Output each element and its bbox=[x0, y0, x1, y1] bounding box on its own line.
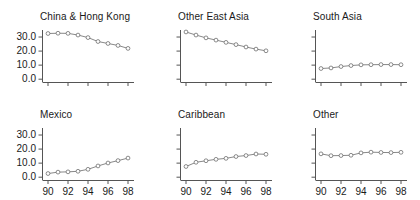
x-tick-label: 90 bbox=[37, 187, 59, 197]
x-tick-label: 90 bbox=[175, 187, 197, 197]
data-point bbox=[126, 47, 130, 51]
x-tick-label: 92 bbox=[195, 187, 217, 197]
y-tick-label: 20.0 bbox=[2, 46, 36, 56]
data-point bbox=[56, 170, 60, 174]
data-point bbox=[184, 165, 188, 169]
panel-title: Other East Asia bbox=[178, 11, 249, 22]
data-point bbox=[86, 167, 90, 171]
data-point bbox=[86, 36, 90, 40]
data-point bbox=[379, 151, 383, 155]
data-point bbox=[264, 152, 268, 156]
data-point bbox=[66, 31, 70, 35]
data-point bbox=[264, 49, 268, 53]
data-point bbox=[126, 156, 130, 160]
plot-area bbox=[180, 30, 282, 92]
x-tick-label: 96 bbox=[97, 187, 119, 197]
y-tick-label: 0.0 bbox=[2, 172, 36, 182]
data-point bbox=[106, 161, 110, 165]
data-point bbox=[319, 152, 323, 156]
data-point bbox=[359, 151, 363, 155]
x-tick-label: 98 bbox=[117, 187, 139, 197]
x-tick-label: 96 bbox=[235, 187, 257, 197]
data-point bbox=[204, 36, 208, 40]
data-point bbox=[399, 63, 403, 67]
x-tick-label: 94 bbox=[350, 187, 372, 197]
panel-title: Caribbean bbox=[178, 109, 225, 120]
data-point bbox=[214, 157, 218, 161]
data-point bbox=[224, 156, 228, 160]
figure-canvas: China & Hong Kong0.010.020.030.0Other Ea… bbox=[0, 0, 420, 200]
data-point bbox=[389, 63, 393, 67]
data-point bbox=[369, 63, 373, 67]
x-tick-label: 98 bbox=[255, 187, 277, 197]
data-point bbox=[46, 172, 50, 176]
data-point bbox=[106, 42, 110, 46]
x-tick-label: 92 bbox=[57, 187, 79, 197]
data-point bbox=[96, 40, 100, 44]
data-point bbox=[116, 159, 120, 163]
data-point bbox=[96, 164, 100, 168]
plot-area bbox=[315, 128, 417, 190]
plot-area bbox=[315, 30, 417, 92]
data-point bbox=[254, 152, 258, 156]
data-point bbox=[76, 169, 80, 173]
data-point bbox=[204, 159, 208, 163]
data-point bbox=[224, 40, 228, 44]
x-tick-label: 92 bbox=[330, 187, 352, 197]
panel-title: Mexico bbox=[40, 109, 72, 120]
x-tick-label: 94 bbox=[215, 187, 237, 197]
data-point bbox=[329, 154, 333, 158]
data-point bbox=[254, 47, 258, 51]
y-tick-label: 10.0 bbox=[2, 158, 36, 168]
y-tick-label: 10.0 bbox=[2, 60, 36, 70]
data-point bbox=[214, 38, 218, 42]
y-tick-label: 30.0 bbox=[2, 130, 36, 140]
panel-title: South Asia bbox=[313, 11, 362, 22]
x-tick-label: 94 bbox=[77, 187, 99, 197]
data-point bbox=[116, 44, 120, 48]
data-point bbox=[399, 150, 403, 154]
data-point bbox=[234, 43, 238, 47]
data-point bbox=[319, 67, 323, 71]
panel-title: China & Hong Kong bbox=[40, 11, 130, 22]
data-point bbox=[194, 160, 198, 164]
plot-area bbox=[42, 128, 144, 190]
plot-area bbox=[180, 128, 282, 190]
plot-area bbox=[42, 30, 144, 92]
data-point bbox=[339, 65, 343, 69]
data-point bbox=[66, 170, 70, 174]
x-tick-label: 98 bbox=[390, 187, 412, 197]
data-point bbox=[56, 31, 60, 35]
x-tick-label: 96 bbox=[370, 187, 392, 197]
data-point bbox=[369, 150, 373, 154]
data-point bbox=[244, 154, 248, 158]
data-point bbox=[359, 63, 363, 67]
data-point bbox=[184, 30, 188, 34]
data-point bbox=[194, 33, 198, 37]
data-point bbox=[234, 155, 238, 159]
data-point bbox=[46, 32, 50, 36]
x-tick-label: 90 bbox=[310, 187, 332, 197]
data-point bbox=[244, 45, 248, 49]
data-point bbox=[379, 63, 383, 67]
data-point bbox=[329, 66, 333, 70]
data-point bbox=[339, 154, 343, 158]
y-tick-label: 20.0 bbox=[2, 144, 36, 154]
data-point bbox=[389, 151, 393, 155]
y-tick-label: 30.0 bbox=[2, 32, 36, 42]
data-point bbox=[349, 64, 353, 68]
y-tick-label: 0.0 bbox=[2, 74, 36, 84]
data-point bbox=[349, 153, 353, 157]
panel-title: Other bbox=[313, 109, 339, 120]
data-point bbox=[76, 33, 80, 37]
